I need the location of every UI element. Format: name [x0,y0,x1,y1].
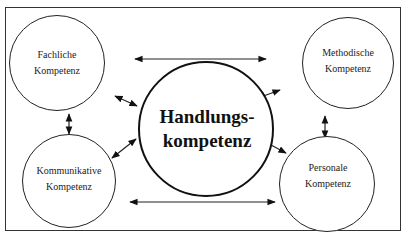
arrow-kommunikative-center [112,139,136,158]
center-line2: kompetenz [159,129,254,153]
arrow-fachliche-center [115,96,137,106]
node-kommunikative-line1: Kommunikative [37,163,102,179]
node-handlungskompetenz-label: Handlungs- kompetenz [159,105,254,153]
node-kommunikative-line2: Kompetenz [37,179,102,195]
center-line1: Handlungs- [159,105,254,129]
node-methodische-line1: Methodische [322,45,374,61]
node-personale-line2: Kompetenz [305,176,351,192]
node-fachliche-line1: Fachliche [34,47,80,63]
node-fachliche-line2: Kompetenz [34,63,80,79]
node-methodische-line2: Kompetenz [322,61,374,77]
node-methodische-label: Methodische Kompetenz [322,45,374,77]
node-personale-label: Personale Kompetenz [305,160,351,192]
node-kommunikative-label: Kommunikative Kompetenz [37,163,102,195]
node-fachliche-label: Fachliche Kompetenz [34,47,80,79]
node-personale-line1: Personale [305,160,351,176]
competence-diagram: Fachliche Kompetenz Methodische Kompeten… [0,0,407,243]
